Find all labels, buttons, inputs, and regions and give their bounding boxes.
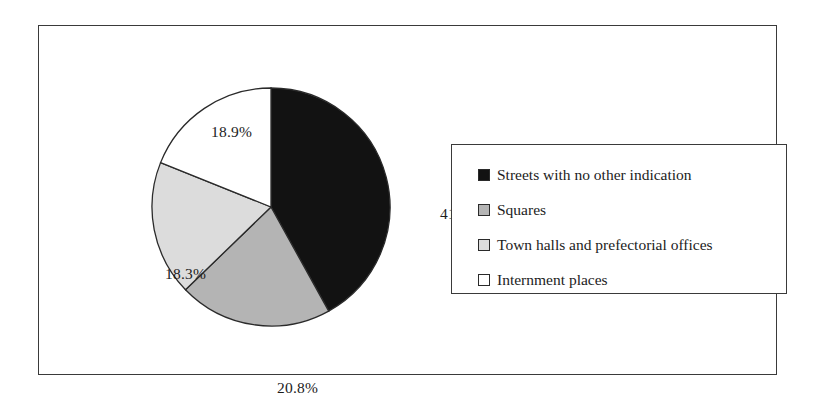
legend-swatch-black [478,169,490,181]
legend-item-label: Streets with no other indication [497,167,692,183]
pie-data-label-internment: 18.9% [211,123,252,141]
pie-data-label-squares: 20.8% [277,379,318,397]
legend-swatch-light-gray [478,239,490,251]
legend-item: Streets with no other indication [478,157,778,192]
legend-item: Internment places [478,262,778,297]
pie-chart: 41.9% 20.8% 18.3% 18.9% [99,66,444,366]
legend-item: Town halls and prefectorial offices [478,227,778,262]
legend-item-label: Town halls and prefectorial offices [497,237,713,253]
legend-item-label: Internment places [497,272,608,288]
legend-item-label: Squares [497,202,546,218]
figure-root: 41.9% 20.8% 18.3% 18.9% Streets with no … [0,0,817,399]
chart-legend: Streets with no other indicationSquaresT… [451,144,787,294]
legend-item-list: Streets with no other indicationSquaresT… [478,157,778,297]
legend-item: Squares [478,192,778,227]
pie-chart-svg [99,66,444,366]
pie-slice-group [152,88,390,326]
legend-swatch-medium-gray [478,204,490,216]
chart-outer-frame: 41.9% 20.8% 18.3% 18.9% Streets with no … [38,25,777,375]
legend-swatch-white [478,274,490,286]
pie-data-label-town-halls: 18.3% [165,265,206,283]
